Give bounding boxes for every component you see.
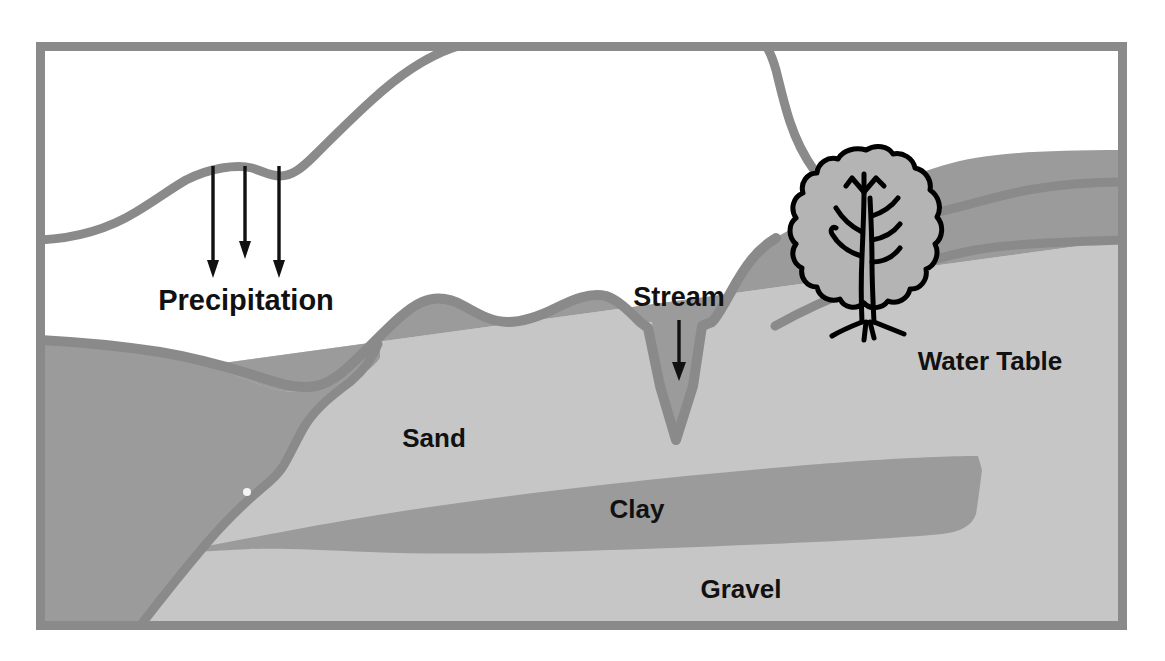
groundwater-cross-section-diagram: Precipitation Stream Water Table Sand Cl… [0,0,1165,661]
label-clay: Clay [610,494,665,524]
label-gravel: Gravel [701,574,782,604]
label-precipitation: Precipitation [158,284,334,316]
label-sand: Sand [402,423,466,453]
diagram-canvas: Precipitation Stream Water Table Sand Cl… [0,0,1165,661]
label-stream: Stream [633,282,725,312]
label-water-table: Water Table [918,346,1062,376]
boundary-highlight-nick [243,488,251,496]
